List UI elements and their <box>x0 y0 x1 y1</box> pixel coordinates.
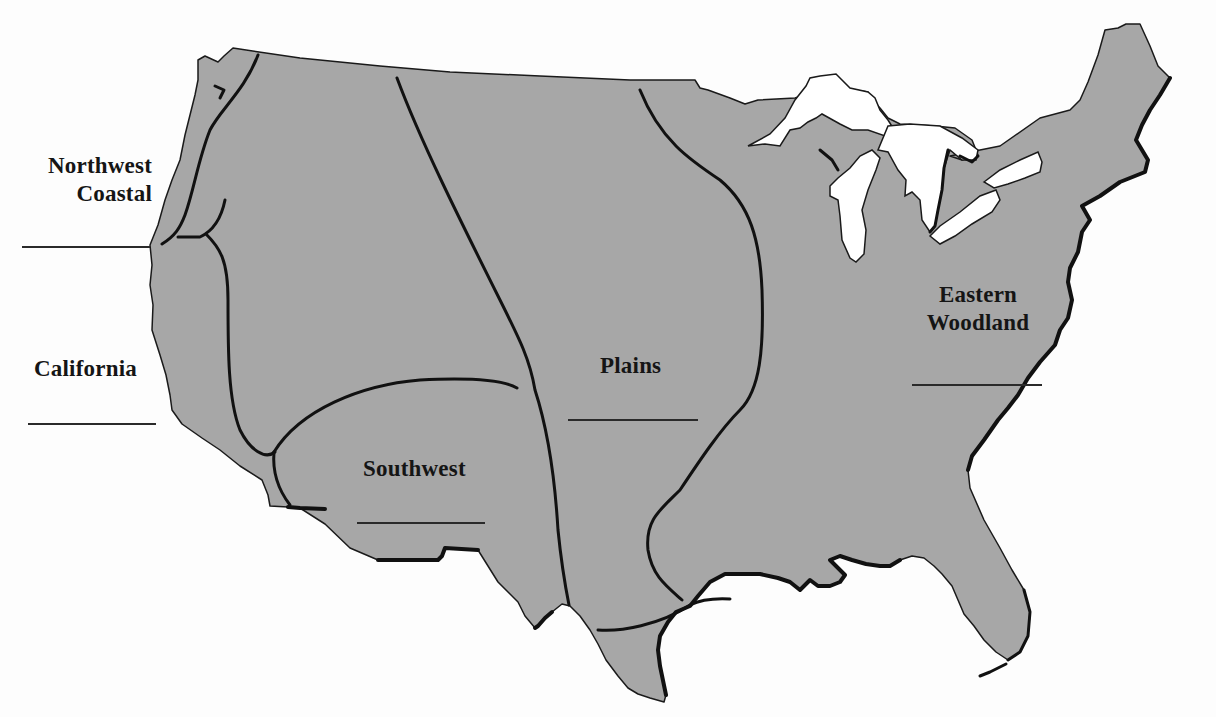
answer-blank-california[interactable] <box>28 423 156 425</box>
label-southwest: Southwest <box>363 455 466 483</box>
answer-blank-southwest[interactable] <box>357 522 485 524</box>
label-eastern-line2: Woodland <box>910 309 1046 337</box>
label-northwest-line2: Coastal <box>18 180 152 208</box>
label-california: California <box>34 355 137 383</box>
culture-areas-map-page: Northwest Coastal California Southwest P… <box>0 0 1216 717</box>
answer-blank-plains[interactable] <box>568 419 698 421</box>
answer-blank-eastern-woodland[interactable] <box>912 384 1042 386</box>
label-plains: Plains <box>600 352 661 380</box>
label-eastern-woodland: Eastern Woodland <box>910 281 1046 337</box>
label-california-text: California <box>34 356 137 381</box>
label-eastern-line1: Eastern <box>910 281 1046 309</box>
label-plains-text: Plains <box>600 353 661 378</box>
answer-blank-northwest-coastal[interactable] <box>22 246 150 248</box>
label-northwest-line1: Northwest <box>18 152 152 180</box>
label-northwest-coastal: Northwest Coastal <box>18 152 152 208</box>
label-southwest-text: Southwest <box>363 456 466 481</box>
